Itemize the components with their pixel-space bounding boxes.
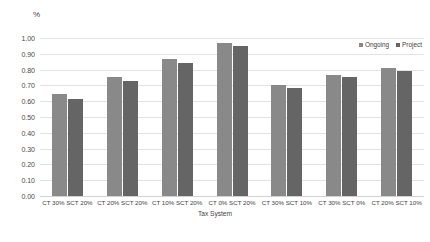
bar [342, 77, 357, 196]
bar-group [259, 38, 314, 196]
y-axis-tick-label: 0.90 [21, 50, 35, 57]
x-axis-tick-label: CT 30% SCT 0% [314, 199, 369, 207]
x-axis-title: Tax System [0, 210, 430, 217]
bar [217, 43, 232, 196]
x-axis-tick-label: CT 30% SCT 20% [40, 199, 95, 207]
bar-group [205, 38, 260, 196]
bar [381, 68, 396, 196]
plot-area [40, 38, 424, 196]
bar [178, 63, 193, 196]
bar [233, 46, 248, 196]
y-axis-unit-label: % [33, 10, 40, 19]
chart-legend: OngoingProject [359, 41, 422, 48]
x-axis-tick-label: CT 10% SCT 20% [150, 199, 205, 207]
bar [162, 59, 177, 196]
legend-label: Ongoing [365, 41, 389, 48]
y-axis-tick-label: 0.40 [21, 129, 35, 136]
x-axis-tick-label: CT 0% SCT 20% [205, 199, 260, 207]
bar-groups [40, 38, 424, 196]
x-axis-tick-label: CT 30% SCT 10% [259, 199, 314, 207]
y-axis-tick-label: 0.60 [21, 98, 35, 105]
legend-item[interactable]: Ongoing [359, 41, 389, 48]
bar-group [369, 38, 424, 196]
bar-group [150, 38, 205, 196]
bar [326, 75, 341, 196]
bar [68, 99, 83, 196]
gridline [40, 196, 424, 197]
bar [287, 88, 302, 196]
y-axis-tick-label: 0.80 [21, 66, 35, 73]
legend-swatch-icon [359, 43, 363, 47]
bar [397, 71, 412, 196]
bar-group [95, 38, 150, 196]
x-axis-tick-label: CT 20% SCT 10% [369, 199, 424, 207]
bar-group [40, 38, 95, 196]
y-axis-tick-label: 1.00 [21, 35, 35, 42]
x-axis-tick-labels: CT 30% SCT 20%CT 20% SCT 20%CT 10% SCT 2… [40, 199, 424, 207]
y-axis-tick-label: 0.50 [21, 114, 35, 121]
y-axis-tick-label: 0.30 [21, 145, 35, 152]
legend-swatch-icon [396, 43, 400, 47]
y-axis-tick-label: 0.20 [21, 161, 35, 168]
bar-chart: % 1.000.900.800.700.600.500.400.300.200.… [0, 0, 430, 242]
y-axis-tick-label: 0.10 [21, 177, 35, 184]
bar [107, 77, 122, 196]
legend-item[interactable]: Project [396, 41, 422, 48]
bar [123, 81, 138, 196]
bar [271, 85, 286, 196]
bar-group [314, 38, 369, 196]
x-axis-tick-label: CT 20% SCT 20% [95, 199, 150, 207]
legend-label: Project [402, 41, 422, 48]
y-axis-tick-label: 0.70 [21, 82, 35, 89]
y-axis-tick-labels: 1.000.900.800.700.600.500.400.300.200.10… [0, 38, 38, 196]
bar [52, 94, 67, 196]
y-axis-tick-label: 0.00 [21, 193, 35, 200]
